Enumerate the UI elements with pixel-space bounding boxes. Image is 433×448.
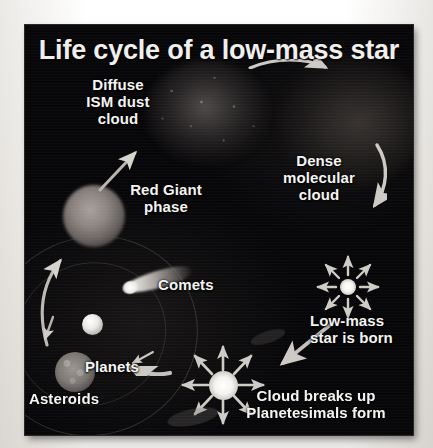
- newborn-low-mass-star-object: [340, 279, 356, 295]
- label-comets: Comets: [158, 277, 248, 294]
- planet-small-object: [82, 314, 103, 335]
- label-red-giant-phase: Red Giant phase: [111, 182, 221, 216]
- label-dense-molecular-cloud: Dense molecular cloud: [260, 153, 378, 203]
- figure-title: Life cycle of a low-mass star: [25, 35, 413, 66]
- astronomy-figure-frame: Life cycle of a low-mass star Diffuse IS…: [25, 25, 413, 435]
- label-planets: Planets: [85, 359, 175, 376]
- page-root: Life cycle of a low-mass star Diffuse IS…: [0, 0, 433, 448]
- label-diffuse-ism-dust-cloud: Diffuse ISM dust cloud: [63, 77, 173, 127]
- label-asteroids: Asteroids: [29, 391, 139, 408]
- label-cloud-breaks-up: Cloud breaks up Planetesimals form: [225, 388, 407, 422]
- label-low-mass-star-is-born: Low-mass star is born: [310, 313, 413, 347]
